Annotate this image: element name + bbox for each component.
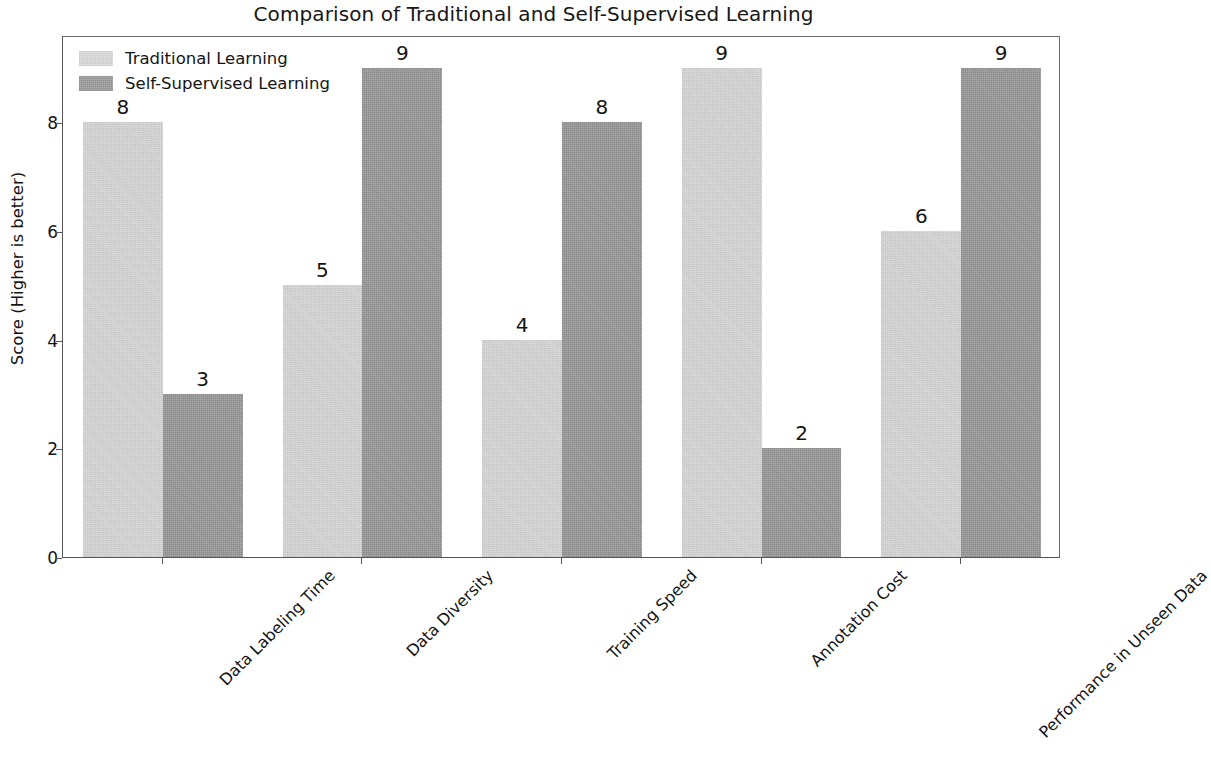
legend-swatch-icon xyxy=(79,51,113,66)
bar-value-label: 6 xyxy=(915,204,928,228)
bar-value-label: 2 xyxy=(795,421,808,445)
chart-legend: Traditional LearningSelf-Supervised Lear… xyxy=(71,43,340,99)
bar[interactable] xyxy=(682,68,762,557)
chart-title: Comparison of Traditional and Self-Super… xyxy=(0,2,1067,26)
bar-value-label: 9 xyxy=(396,41,409,65)
bar-value-label: 9 xyxy=(995,41,1008,65)
legend-item[interactable]: Self-Supervised Learning xyxy=(79,74,330,93)
x-tick-mark xyxy=(761,558,762,564)
x-tick-label: Performance in Unseen Data xyxy=(1035,566,1211,742)
legend-label: Traditional Learning xyxy=(125,49,288,68)
bar[interactable] xyxy=(283,285,363,557)
x-tick-label: Data Labeling Time xyxy=(215,566,338,689)
x-tick-label: Annotation Cost xyxy=(806,566,910,670)
bar[interactable] xyxy=(762,448,842,557)
x-tick-mark xyxy=(561,558,562,564)
x-tick-label: Data Diversity xyxy=(403,566,497,660)
bar-value-label: 5 xyxy=(316,258,329,282)
legend-item[interactable]: Traditional Learning xyxy=(79,49,330,68)
y-axis-label: Score (Higher is better) xyxy=(8,9,27,529)
legend-swatch-icon xyxy=(79,76,113,91)
bar[interactable] xyxy=(881,231,961,557)
x-tick-mark xyxy=(361,558,362,564)
bar[interactable] xyxy=(362,68,442,557)
bar[interactable] xyxy=(163,394,243,557)
bar-value-label: 4 xyxy=(516,313,529,337)
bar-value-label: 9 xyxy=(715,41,728,65)
bar[interactable] xyxy=(961,68,1041,557)
x-tick-mark xyxy=(960,558,961,564)
bar-value-label: 8 xyxy=(596,95,609,119)
bar[interactable] xyxy=(562,122,642,557)
x-tick-mark xyxy=(162,558,163,564)
bar[interactable] xyxy=(83,122,163,557)
bar-value-label: 3 xyxy=(196,367,209,391)
legend-label: Self-Supervised Learning xyxy=(125,74,330,93)
y-tick-mark xyxy=(56,558,62,559)
plot-area: 8359489269 Traditional LearningSelf-Supe… xyxy=(62,36,1060,558)
x-tick-label: Training Speed xyxy=(604,566,701,663)
bar[interactable] xyxy=(482,340,562,558)
